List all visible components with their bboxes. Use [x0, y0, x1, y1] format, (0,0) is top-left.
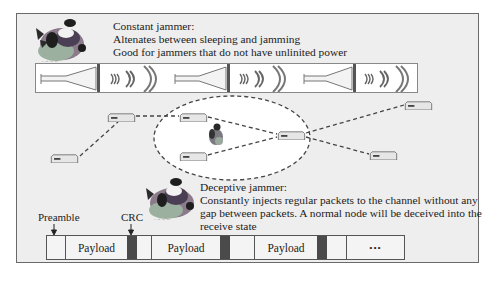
preamble-cell	[137, 236, 151, 259]
ellipsis-cell: •••	[346, 236, 404, 259]
crc-cell	[317, 236, 327, 259]
preamble-cell	[327, 236, 346, 259]
payload-cell: Payload	[151, 236, 220, 259]
preamble-cell	[47, 236, 65, 259]
crc-cell	[220, 236, 230, 259]
preamble-cell	[230, 236, 254, 259]
packet-sequence: Payload Payload Payload •••	[46, 235, 405, 260]
crc-cell	[127, 236, 137, 259]
payload-cell: Payload	[65, 236, 127, 259]
payload-cell: Payload	[254, 236, 317, 259]
